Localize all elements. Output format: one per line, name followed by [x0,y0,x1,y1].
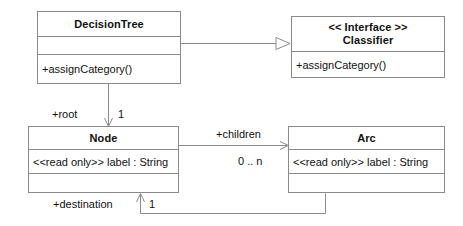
association-connector-root [105,84,113,127]
class-box-decisiontree[interactable]: DecisionTree +assignCategory() [37,11,181,84]
operation-assigncategory-classifier: +assignCategory() [296,59,386,71]
class-operations-node [29,173,178,192]
edge-label-children-role: +children [216,128,261,140]
class-operations-arc [289,173,444,192]
edge-label-destination-role: +destination [53,198,113,210]
class-attributes-arc: <<read only>> label : String [289,149,444,173]
class-stereotype-classifier: << Interface >> [328,21,407,34]
class-attributes-node: <<read only>> label : String [29,149,178,173]
edge-label-root-multiplicity: 1 [118,108,124,120]
class-name-node: Node [90,132,118,145]
association-connector-destination [137,194,326,214]
attribute-label-arc: <<read only>> label : String [293,156,428,168]
edge-label-destination-multiplicity: 1 [149,198,155,210]
uml-class-diagram: DecisionTree +assignCategory() << Interf… [0,0,463,226]
class-name-decisiontree: DecisionTree [74,18,144,31]
attribute-label-node: <<read only>> label : String [33,156,168,168]
class-box-node[interactable]: Node <<read only>> label : String [28,126,179,193]
class-title-arc: Arc [289,127,444,149]
class-title-node: Node [29,127,178,149]
edge-label-root-role: +root [52,108,77,120]
class-operations-decisiontree: +assignCategory() [38,54,180,83]
class-name-arc: Arc [357,132,376,145]
class-title-classifier: << Interface >> Classifier [292,17,444,51]
association-connector-children [179,142,289,150]
class-box-arc[interactable]: Arc <<read only>> label : String [288,126,445,193]
class-name-classifier: Classifier [343,34,394,47]
class-operations-classifier: +assignCategory() [292,51,444,77]
class-attributes-decisiontree [38,36,180,54]
class-title-decisiontree: DecisionTree [38,12,180,36]
operation-assigncategory-decisiontree: +assignCategory() [42,63,132,75]
edge-label-children-multiplicity: 0 .. n [238,155,262,167]
realization-connector-decisiontree-classifier [181,38,291,50]
class-box-classifier[interactable]: << Interface >> Classifier +assignCatego… [291,16,445,78]
